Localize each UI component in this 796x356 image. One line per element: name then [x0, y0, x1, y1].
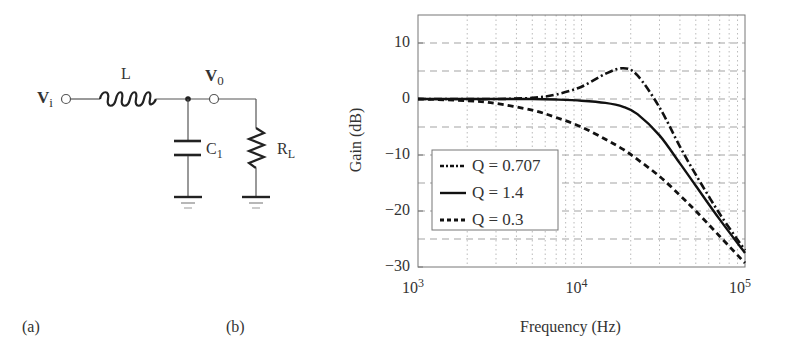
y-axis-label: Gain (dB) — [347, 108, 365, 172]
legend-entry-label: Q = 0.3 — [472, 210, 524, 230]
x-tick-label: 103 — [402, 276, 424, 297]
x-tick-label: 104 — [566, 276, 588, 297]
y-tick-label: −30 — [0, 257, 410, 275]
gain-chart — [0, 0, 796, 356]
y-tick-label: 0 — [0, 89, 410, 107]
y-tick-label: −20 — [0, 201, 410, 219]
panel-b-label: (b) — [226, 318, 245, 336]
x-axis-label: Frequency (Hz) — [520, 318, 621, 336]
x-tick-label: 105 — [729, 276, 751, 297]
legend-entry-label: Q = 1.4 — [472, 183, 524, 203]
legend-entry-label: Q = 0.707 — [472, 156, 541, 176]
y-tick-label: 10 — [0, 33, 410, 51]
